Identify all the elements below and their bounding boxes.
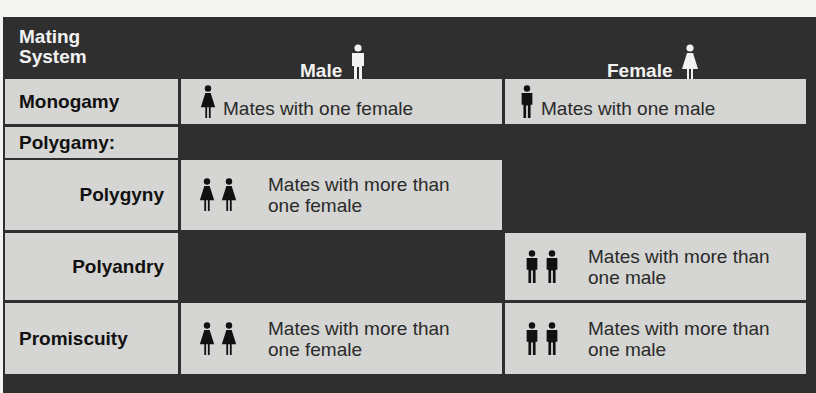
header-mating-system-line2: System — [19, 47, 87, 67]
cell-text: Mates with more than one male — [588, 318, 770, 360]
cell-text: Mates with more than one male — [588, 246, 770, 288]
row-label-polygyny: Polygyny — [5, 160, 178, 230]
header-female: Female — [607, 44, 700, 82]
row-label-promiscuity: Promiscuity — [5, 303, 178, 374]
row-label-text: Promiscuity — [19, 328, 128, 350]
header-mating-system-line1: Mating — [19, 27, 87, 47]
two-female-figures-icon — [198, 178, 238, 212]
header-male: Male — [300, 44, 366, 82]
row-label-text: Monogamy — [19, 91, 119, 113]
female-figure-icon — [199, 85, 217, 119]
cell-polygyny-male: Mates with more than one female — [181, 160, 502, 230]
cell-promiscuity-male: Mates with more than one female — [181, 303, 502, 374]
cell-text: Mates with more than one female — [268, 174, 450, 216]
male-figure-icon — [350, 44, 366, 82]
female-figure-icon — [680, 44, 700, 82]
row-label-polygamy: Polygamy: — [5, 127, 178, 158]
cell-text: Mates with one male — [541, 98, 715, 119]
cell-monogamy-female: Mates with one male — [505, 79, 806, 124]
header-mating-system: Mating System — [19, 27, 87, 67]
cell-polyandry-female: Mates with more than one male — [505, 233, 806, 300]
row-label-text: Polyandry — [72, 256, 164, 278]
row-label-polyandry: Polyandry — [5, 233, 178, 300]
row-label-text: Polygyny — [80, 184, 164, 206]
row-label-text: Polygamy: — [19, 132, 115, 154]
cell-text: Mates with one female — [223, 98, 413, 119]
two-male-figures-icon — [524, 322, 560, 356]
cell-promiscuity-female: Mates with more than one male — [505, 303, 806, 374]
male-figure-icon — [519, 85, 535, 119]
two-female-figures-icon — [198, 322, 238, 356]
two-male-figures-icon — [524, 250, 560, 284]
row-label-monogamy: Monogamy — [5, 79, 178, 124]
cell-monogamy-male: Mates with one female — [181, 79, 502, 124]
cell-text: Mates with more than one female — [268, 318, 450, 360]
